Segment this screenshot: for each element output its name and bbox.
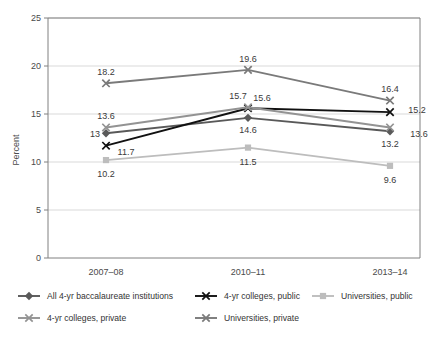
data-point-label: 18.2	[97, 67, 115, 77]
data-point-label: 11.5	[240, 157, 257, 167]
data-point-marker-square	[245, 145, 251, 151]
legend-label: All 4-yr baccalaureate institutions	[47, 291, 173, 301]
data-point-label: 13.2	[381, 139, 399, 149]
y-axis-title: Percent	[11, 134, 21, 166]
legend-label: Universities, private	[224, 313, 299, 323]
data-point-label: 11.7	[118, 147, 135, 157]
data-point-label: 15.7	[229, 91, 247, 101]
data-point-label: 14.6	[239, 125, 257, 135]
data-point-label: 15.6	[253, 93, 271, 103]
x-category-label: 2010–11	[231, 267, 265, 277]
y-tick-label: 15	[31, 109, 41, 119]
y-tick-label: 25	[31, 13, 41, 23]
chart-container: 0510152025 2007–082010–112013–14 Percent…	[0, 0, 436, 343]
legend-label: 4-yr colleges, public	[224, 291, 301, 301]
y-tick-label: 0	[36, 253, 41, 263]
y-tick-label: 10	[31, 157, 41, 167]
data-point-label: 9.6	[384, 175, 397, 185]
data-point-label: 16.4	[381, 84, 399, 94]
legend-label: 4-yr colleges, private	[47, 313, 127, 323]
x-category-label: 2007–08	[88, 267, 123, 277]
x-category-label: 2013–14	[372, 267, 407, 277]
line-chart: 0510152025 2007–082010–112013–14 Percent…	[0, 0, 436, 343]
y-tick-label: 20	[31, 61, 41, 71]
data-point-marker-square	[103, 157, 109, 163]
data-point-label: 13.6	[97, 111, 115, 121]
legend-label: Universities, public	[341, 291, 413, 301]
data-point-label: 15.2	[408, 105, 426, 115]
data-point-label: 13.6	[410, 129, 428, 139]
data-point-label: 13	[90, 129, 100, 139]
data-point-marker-square	[387, 163, 393, 169]
y-tick-label: 5	[36, 205, 41, 215]
data-point-label: 19.6	[239, 54, 257, 64]
data-point-marker-square	[320, 293, 326, 299]
data-point-label: 10.2	[97, 169, 115, 179]
